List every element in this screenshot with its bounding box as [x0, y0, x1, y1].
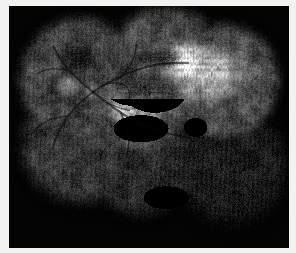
figure-title: Retinal fluorescein angiography montage: [0, 0, 1, 1]
figure-eye-region: Posterior pole with nasal and inferotemp…: [0, 0, 1, 1]
angiography-figure: Retinal fluorescein angiography montage …: [0, 0, 296, 253]
angiography-plate: [9, 6, 289, 248]
figure-modality: Fluorescein angiography: [0, 0, 1, 1]
retinal-angiogram-image: [9, 6, 289, 248]
